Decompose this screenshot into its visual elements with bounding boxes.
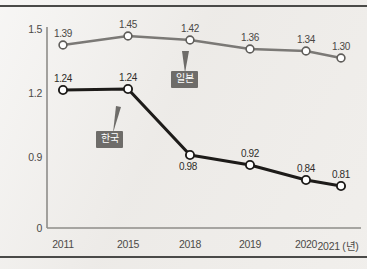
x-tick-label-2019: 2019 <box>226 238 274 250</box>
value-label-japan-2020: 1.34 <box>288 34 324 45</box>
value-label-korea-2011: 1.24 <box>45 73 81 84</box>
value-label-korea-2019: 0.92 <box>232 148 268 159</box>
value-label-korea-2021: 0.81 <box>323 169 359 180</box>
value-label-korea-2015: 1.24 <box>110 72 146 83</box>
top-divider-rule <box>0 5 367 7</box>
series-callout-japan: 일본 <box>171 71 198 88</box>
data-point-korea-2021 <box>337 182 345 190</box>
value-label-korea-2018: 0.98 <box>170 161 206 172</box>
data-point-japan-2015 <box>124 32 132 40</box>
data-point-japan-2018 <box>186 36 194 44</box>
japan-callout-arrow-icon <box>182 51 189 73</box>
data-point-korea-2018 <box>186 151 194 159</box>
value-label-japan-2018: 1.42 <box>172 23 208 34</box>
data-point-korea-2015 <box>124 85 132 93</box>
x-tick-label-2011: 2011 <box>39 238 87 250</box>
value-label-japan-2015: 1.45 <box>110 19 146 30</box>
data-point-japan-2021 <box>337 54 345 62</box>
data-point-japan-2019 <box>246 45 254 53</box>
x-tick-label-2018: 2018 <box>166 238 214 250</box>
x-tick-label-2021: 2021 (년) <box>310 238 366 253</box>
value-label-japan-2019: 1.36 <box>232 32 268 43</box>
y-tick-label-0-9: 0.9 <box>16 151 42 163</box>
data-point-korea-2020 <box>302 176 310 184</box>
data-point-korea-2019 <box>246 161 254 169</box>
value-label-korea-2020: 0.84 <box>288 163 324 174</box>
y-tick-label-1-2: 1.2 <box>16 87 42 99</box>
korea-callout-arrow-icon <box>113 106 121 133</box>
y-tick-label-1-5: 1.5 <box>16 23 42 35</box>
series-callout-korea: 한국 <box>96 131 123 148</box>
y-tick-label-0: 0 <box>16 222 42 234</box>
data-point-korea-2011 <box>59 86 67 94</box>
data-point-japan-2020 <box>302 47 310 55</box>
data-point-japan-2011 <box>59 41 67 49</box>
value-label-japan-2021: 1.30 <box>323 41 359 52</box>
x-tick-label-2015: 2015 <box>104 238 152 250</box>
value-label-japan-2011: 1.39 <box>45 28 81 39</box>
bottom-divider-rule <box>0 256 367 258</box>
chart-container: 1.5 1.2 0.9 0 2011 2015 2018 2019 2020 2… <box>0 0 367 269</box>
